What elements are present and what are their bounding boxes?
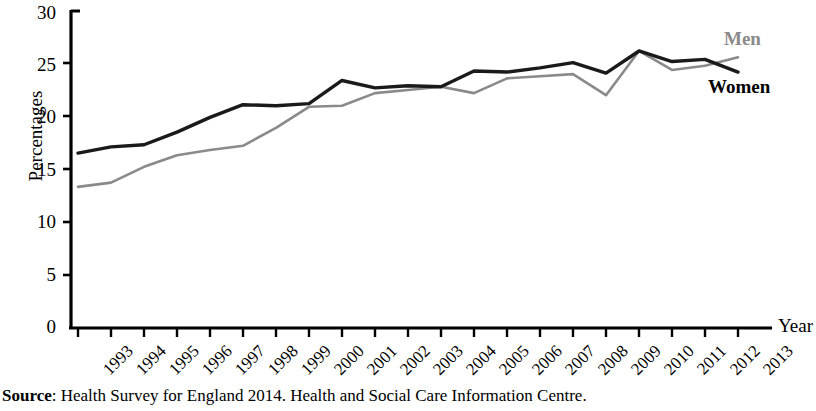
x-axis-ticks bbox=[78, 328, 738, 337]
series-label-women: Women bbox=[708, 76, 770, 98]
series-line-women bbox=[78, 51, 738, 153]
source-note: Source: Health Survey for England 2014. … bbox=[2, 386, 587, 406]
source-text: : Health Survey for England 2014. Health… bbox=[52, 386, 587, 405]
chart-figure: Percentages 30 25 20 15 10 5 0 199319941… bbox=[0, 0, 816, 411]
axis-lines bbox=[69, 10, 772, 329]
source-prefix: Source bbox=[2, 386, 52, 405]
x-axis-title: Year bbox=[778, 315, 813, 337]
series-line-men bbox=[78, 51, 738, 187]
series-label-men: Men bbox=[724, 28, 761, 50]
